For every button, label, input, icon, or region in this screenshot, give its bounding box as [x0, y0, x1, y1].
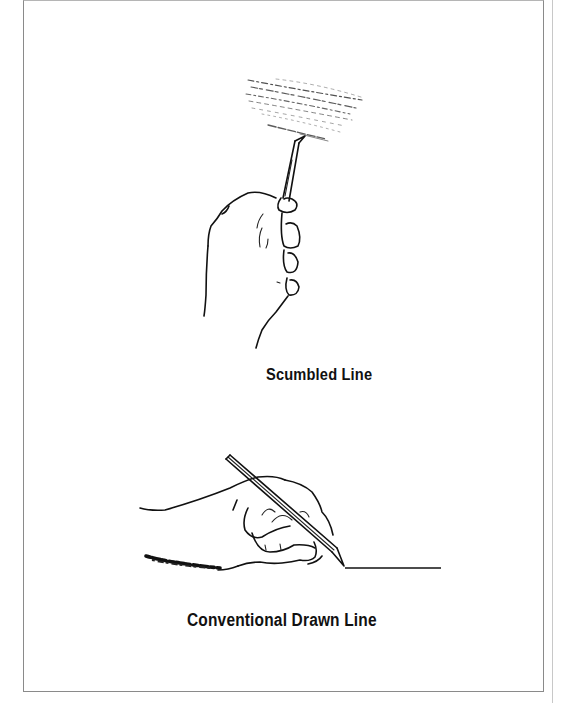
illustration-conventional-line [0, 0, 562, 703]
caption-conventional-drawn-line: Conventional Drawn Line [187, 610, 377, 631]
caption-scumbled-line: Scumbled Line [266, 365, 372, 385]
